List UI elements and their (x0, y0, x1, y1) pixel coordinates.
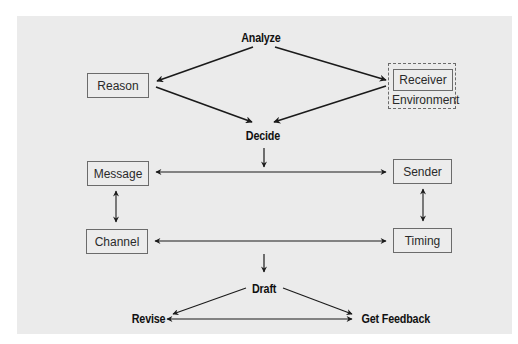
factor-reason: Reason (87, 73, 149, 98)
factor-environment: Environment (392, 93, 459, 107)
step-get-feedback: Get Feedback (362, 312, 430, 326)
factor-receiver: Receiver (393, 69, 453, 91)
arrow-analyze-to-receiver (275, 47, 386, 80)
arrow-draft-to-feedback (283, 288, 352, 314)
step-analyze: Analyze (241, 31, 280, 45)
arrow-draft-to-revise (173, 288, 246, 314)
factor-timing: Timing (393, 228, 452, 253)
factor-channel: Channel (86, 229, 148, 254)
factor-sender: Sender (393, 159, 452, 184)
arrow-receiver-to-decide (274, 86, 386, 122)
arrow-reason-to-decide (156, 87, 252, 122)
factor-message: Message (87, 161, 149, 186)
step-decide: Decide (246, 129, 280, 143)
step-revise: Revise (132, 312, 166, 326)
step-draft: Draft (252, 282, 276, 296)
arrow-analyze-to-reason (157, 47, 253, 81)
